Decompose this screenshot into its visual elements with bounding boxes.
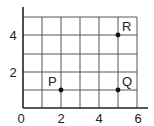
x-tick-label-6: 6: [134, 111, 141, 126]
point-r: [116, 33, 121, 38]
x-tick-label-4: 4: [95, 111, 102, 126]
point-q: [116, 88, 121, 93]
point-p: [59, 88, 64, 93]
x-tick-label-2: 2: [57, 111, 64, 126]
y-tick-label-4: 4: [9, 28, 16, 43]
y-tick-label-2: 2: [9, 65, 16, 80]
point-label-r: R: [122, 19, 131, 34]
coordinate-grid: 0 2 4 6 4 2 P Q R: [0, 0, 154, 126]
grid-lines: [23, 17, 137, 108]
point-label-p: P: [48, 74, 57, 89]
point-label-q: Q: [122, 74, 132, 89]
x-tick-label-0: 0: [17, 111, 24, 126]
